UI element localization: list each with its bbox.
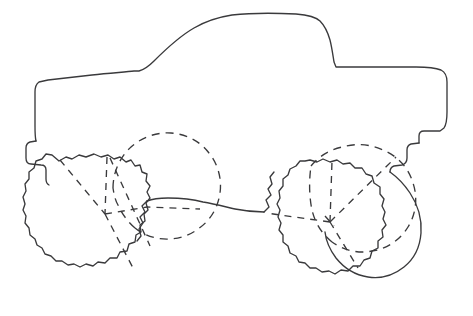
front-near-wheel-tire <box>23 154 150 267</box>
monster-truck-drawing: Black outline drawing of a monster truck… <box>0 0 473 316</box>
rear-outer-wheel-group <box>325 172 421 278</box>
front-near-wheel-group <box>23 154 150 267</box>
front-hub-spokes-group <box>60 157 200 268</box>
rear-suspension-knuckle <box>264 172 274 212</box>
rear-spoke-upper-right <box>330 157 396 222</box>
rear-spoke-upper <box>330 161 332 222</box>
front-spoke-upper-left <box>60 160 105 214</box>
front-spoke-vertical <box>105 157 107 214</box>
truck-body-outline <box>35 13 447 143</box>
front-far-wheel-lower-arc <box>113 188 135 228</box>
truck-body-group <box>26 13 447 185</box>
chassis-axle-line <box>147 198 264 212</box>
front-spoke-lower <box>105 214 133 268</box>
artwork-canvas: Black outline drawing of a monster truck… <box>0 0 473 316</box>
front-far-wheel-group <box>113 133 221 239</box>
chassis-group <box>137 172 274 241</box>
rear-far-wheel-lower-arc <box>310 166 332 242</box>
rear-outer-wheel-tire <box>325 172 421 278</box>
rear-spoke-lower <box>330 222 358 268</box>
front-hub-to-axle <box>105 207 200 214</box>
rear-spoke-left <box>266 213 330 222</box>
rear-bumper-step <box>390 143 419 172</box>
